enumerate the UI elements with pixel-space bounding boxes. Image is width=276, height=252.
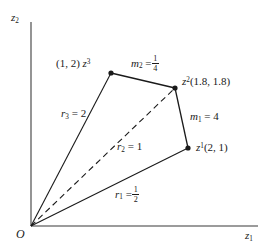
edge-m2 <box>111 73 175 88</box>
slope-m1-subscript: 1 <box>198 116 202 124</box>
ray-r1-fraction: 12 <box>132 186 139 204</box>
slope-m2-equals: = <box>145 57 151 69</box>
ray-r2-equals: = <box>128 140 134 152</box>
point-z3-coords: (1, 2) <box>56 57 80 69</box>
point-z1-coords: (2, 1) <box>204 141 228 153</box>
ray-r3 <box>31 73 111 226</box>
slope-m1-symbol: m <box>190 110 198 122</box>
point-label-z1: z1(2, 1) <box>196 142 228 153</box>
ray-label-r1: r1 =12 <box>115 186 139 204</box>
slope-m1-equals: = <box>204 110 210 122</box>
x-axis-label-subscript: 1 <box>249 235 253 243</box>
geometry-figure: z2 z1 O (1, 2) z3 z2(1.8, 1.8) z1(2, 1) … <box>0 0 276 252</box>
ray-r3-subscript: 3 <box>65 113 69 121</box>
y-axis-label-subscript: 2 <box>15 17 19 25</box>
ray-label-r3: r3 = 2 <box>61 108 86 121</box>
x-axis-label: z1 <box>245 230 253 243</box>
ray-r1-subscript: 1 <box>119 193 123 201</box>
point-label-z3: (1, 2) z3 <box>56 58 90 69</box>
ray-r2-value: 1 <box>137 140 143 152</box>
slope-m2-fraction: 14 <box>152 55 159 73</box>
edge-m1 <box>175 88 188 148</box>
ray-r1-denominator: 2 <box>132 195 139 204</box>
ray-r1-equals: = <box>126 188 132 200</box>
slope-label-m2: m2 =14 <box>131 55 159 73</box>
ray-r1 <box>31 148 188 226</box>
ray-r2 <box>31 88 175 226</box>
point-z2-dot <box>172 85 177 90</box>
slope-label-m1: m1 = 4 <box>190 111 219 124</box>
figure-canvas <box>0 0 276 252</box>
y-axis-label: z2 <box>11 12 19 25</box>
point-z3-dot <box>108 70 113 75</box>
ray-r3-value: 2 <box>81 107 87 119</box>
ray-label-r2: r2 = 1 <box>117 141 142 154</box>
point-z3-superscript: 3 <box>87 58 91 66</box>
slope-m2-symbol: m <box>131 57 139 69</box>
point-z2-coords: (1.8, 1.8) <box>190 75 230 87</box>
point-label-z2: z2(1.8, 1.8) <box>182 76 230 87</box>
slope-m2-subscript: 2 <box>139 62 143 70</box>
point-z1-dot <box>185 145 190 150</box>
ray-r3-equals: = <box>72 107 78 119</box>
origin-label: O <box>16 228 25 240</box>
slope-m2-denominator: 4 <box>152 64 159 73</box>
ray-r2-subscript: 2 <box>121 146 125 154</box>
slope-m1-value: 4 <box>213 110 219 122</box>
